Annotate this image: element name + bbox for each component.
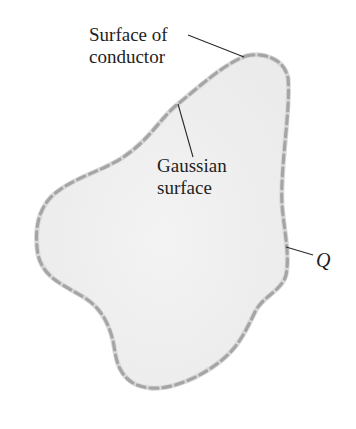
label-surface-of-conductor: Surface of conductor <box>89 24 168 68</box>
label-gaussian-surface: Gaussian surface <box>157 155 227 199</box>
label-surface-of-conductor-line1: Surface of <box>89 24 168 46</box>
leader-line-charge <box>286 247 313 255</box>
leader-line-conductor <box>188 35 244 57</box>
conductor-diagram <box>0 0 356 429</box>
conductor-body <box>37 55 289 388</box>
label-gaussian-surface-line1: Gaussian <box>157 155 227 177</box>
label-gaussian-surface-line2: surface <box>157 177 227 199</box>
label-surface-of-conductor-line2: conductor <box>89 46 168 68</box>
label-charge-q: Q <box>316 249 330 271</box>
